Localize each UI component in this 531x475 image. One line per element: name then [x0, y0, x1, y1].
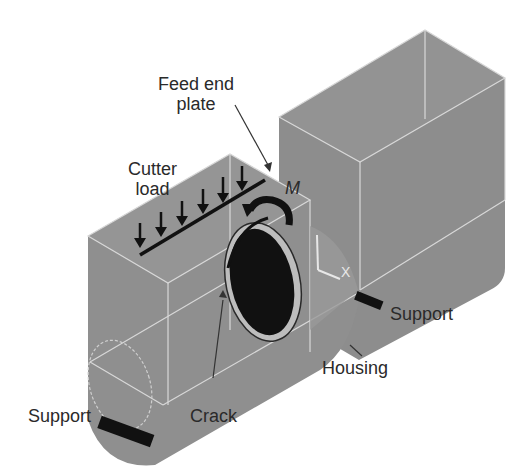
cutter-load-line2: load [128, 179, 177, 199]
feed-end-plate-line1: Feed end [158, 74, 234, 94]
cutter-load-line1: Cutter [128, 159, 177, 179]
housing-model-diagram [0, 0, 531, 475]
moment-label: M [285, 178, 300, 198]
axis-x-label: X [341, 262, 350, 282]
feed-end-plate-label: Feed end plate [158, 74, 234, 114]
feed-end-plate-line2: plate [158, 94, 234, 114]
housing-label: Housing [322, 358, 388, 378]
cutter-load-label: Cutter load [128, 159, 177, 199]
support-right-label: Support [390, 304, 453, 324]
support-left-label: Support [28, 406, 91, 426]
crack-label: Crack [190, 406, 237, 426]
